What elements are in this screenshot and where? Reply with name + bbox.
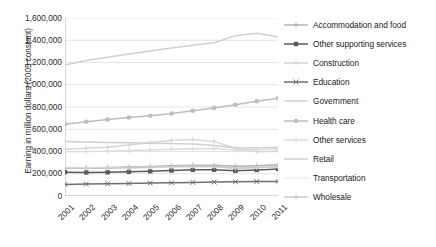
data-point-marker [105, 117, 110, 122]
chart-legend: Accommodation and foodOther supporting s… [283, 15, 436, 207]
series-line [65, 179, 278, 187]
legend-marker-icon [283, 190, 309, 204]
legend-item[interactable]: Accommodation and food [283, 15, 436, 34]
y-axis-tick-label: 0 [16, 192, 62, 201]
y-axis-tick-label: 400,000 [16, 147, 62, 156]
y-axis-tick-label: 1,200,000 [16, 58, 62, 67]
legend-item-label: Government [313, 96, 358, 106]
legend-item[interactable]: Retail [283, 149, 436, 168]
data-point-marker [65, 122, 67, 127]
legend-item-label: Construction [313, 58, 359, 68]
y-axis-tick-label: 200,000 [16, 169, 62, 178]
legend-item[interactable]: Education [283, 73, 436, 92]
y-axis-tick-label: 1,600,000 [16, 14, 62, 23]
legend-item[interactable]: Wholesale [283, 188, 436, 207]
legend-item-label: Education [313, 77, 349, 87]
y-axis-tick-labels: 1,600,0001,400,0001,200,0001,000,000800,… [14, 0, 62, 247]
legend-marker-icon [283, 37, 309, 51]
data-point-marker [276, 96, 278, 101]
legend-item[interactable]: Transportation [283, 169, 436, 188]
legend-marker-icon [283, 171, 309, 185]
data-point-marker [84, 170, 88, 174]
legend-marker-icon [283, 18, 309, 32]
data-point-marker [65, 170, 67, 174]
data-point-marker [254, 99, 259, 104]
y-axis-tick-label: 800,000 [16, 103, 62, 112]
legend-item-label: Retail [313, 154, 334, 164]
legend-item[interactable]: Other supporting services [283, 34, 436, 53]
legend-marker-icon [283, 133, 309, 147]
y-axis-tick-label: 1,000,000 [16, 80, 62, 89]
y-axis-tick-label: 1,400,000 [16, 36, 62, 45]
legend-item[interactable]: Other services [283, 130, 436, 149]
legend-item[interactable]: Government [283, 92, 436, 111]
legend-item-label: Wholesale [313, 192, 351, 202]
legend-item-label: Other services [313, 135, 366, 145]
data-point-marker [127, 115, 132, 120]
data-point-marker [212, 106, 217, 111]
legend-item-label: Transportation [313, 173, 366, 183]
legend-marker-icon [283, 94, 309, 108]
data-point-marker [233, 102, 238, 107]
plot-area [65, 18, 278, 196]
legend-item-label: Health care [313, 116, 355, 126]
line-chart: Earning in million dollars (2005 constan… [0, 0, 436, 247]
legend-marker-icon [283, 56, 309, 70]
data-point-marker [169, 111, 174, 116]
y-axis-tick-label: 600,000 [16, 125, 62, 134]
series-line [65, 33, 278, 65]
legend-item-label: Accommodation and food [313, 20, 406, 30]
series-line [65, 96, 278, 127]
legend-item[interactable]: Health care [283, 111, 436, 130]
data-point-marker [294, 42, 298, 46]
legend-item[interactable]: Construction [283, 53, 436, 72]
plot-svg [65, 18, 278, 196]
data-point-marker [148, 113, 153, 118]
legend-marker-icon [283, 75, 309, 89]
legend-item-label: Other supporting services [313, 39, 406, 49]
data-point-marker [191, 108, 196, 113]
data-point-marker [294, 118, 299, 123]
data-point-marker [84, 119, 89, 124]
legend-marker-icon [283, 114, 309, 128]
legend-marker-icon [283, 152, 309, 166]
series-polyline [65, 33, 278, 65]
x-axis-tick-labels: 2001200220032004200520062007200820092010… [65, 196, 278, 246]
